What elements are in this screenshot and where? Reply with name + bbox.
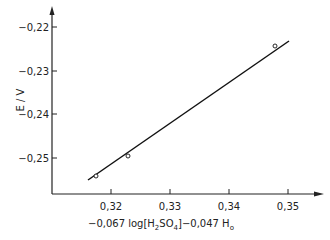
- y-tick-label: −0,23: [18, 66, 49, 77]
- x-axis-label: −0,067 log[H2SO4]−0,047 Ho: [88, 218, 234, 232]
- data-point: [273, 44, 277, 48]
- y-axis-arrow-icon: [50, 6, 55, 15]
- y-tick-label: −0,22: [18, 22, 49, 33]
- x-tick-label: 0,35: [277, 201, 299, 212]
- y-axis-label: E / V: [15, 88, 26, 111]
- x-axis-arrow-icon: [314, 192, 324, 197]
- data-point: [94, 174, 98, 178]
- y-tick-label: −0,25: [18, 153, 49, 164]
- chart: −0,22 −0,23 −0,24 −0,25 0,32 0,33 0,34 0…: [0, 0, 330, 240]
- x-ticks: 0,32 0,33 0,34 0,35: [100, 189, 299, 212]
- x-tick-label: 0,34: [218, 201, 240, 212]
- x-tick-label: 0,32: [100, 201, 122, 212]
- fit-line: [88, 41, 289, 180]
- x-tick-label: 0,33: [159, 201, 181, 212]
- data-point: [126, 154, 130, 158]
